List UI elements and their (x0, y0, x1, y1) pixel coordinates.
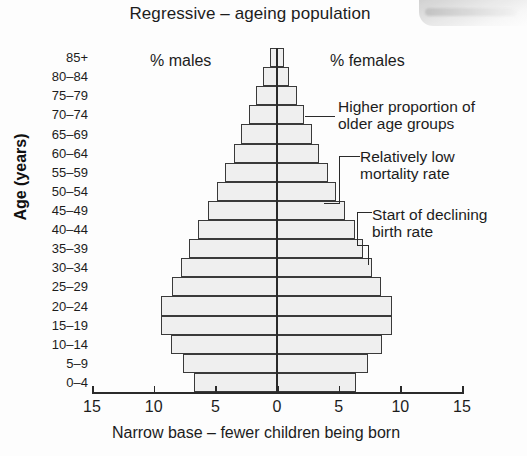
leader-line-2a (340, 156, 360, 157)
bar-female (277, 316, 392, 335)
age-tick-label: 15–19 (30, 319, 88, 332)
age-tick-label: 45–49 (30, 204, 88, 217)
age-tick-label: 0–4 (30, 376, 88, 389)
bar-female (277, 86, 297, 105)
bar-female (277, 163, 328, 182)
x-axis-tick-label: 10 (380, 398, 420, 416)
bar-male (263, 67, 277, 86)
annotation-declining-birth-rate: Start of declining birth rate (372, 206, 487, 240)
bar-male (249, 105, 277, 124)
age-tick-label: 75–79 (30, 89, 88, 102)
x-axis-tick-label: 5 (319, 398, 359, 416)
bar-male (194, 373, 277, 392)
x-axis-tick-label: 15 (442, 398, 482, 416)
x-axis-tick (277, 386, 279, 394)
leader-line-3d (368, 245, 369, 265)
bar-female (277, 239, 363, 258)
bar-female (277, 220, 355, 239)
x-axis-tick (462, 386, 464, 394)
chart-title: Regressive – ageing population (0, 4, 500, 24)
age-tick-label: 40–44 (30, 223, 88, 236)
x-axis-tick (400, 386, 402, 394)
leader-line-3a (357, 212, 372, 213)
age-tick-label: 5–9 (30, 357, 88, 370)
x-axis-tick (215, 386, 217, 394)
bar-female (277, 296, 392, 315)
age-tick-labels: 0–45–910–1415–1920–2425–2930–3435–3940–4… (30, 48, 88, 392)
bar-male (208, 201, 277, 220)
age-tick-label: 55–59 (30, 166, 88, 179)
y-axis-label: Age (years) (12, 112, 30, 242)
bar-female (277, 48, 284, 67)
x-axis-tick (154, 386, 156, 394)
leader-line-2c (324, 203, 340, 204)
x-axis-caption: Narrow base – fewer children being born (0, 424, 512, 442)
age-tick-label: 70–74 (30, 108, 88, 121)
bar-male (161, 296, 277, 315)
x-axis-tick (339, 386, 341, 394)
age-tick-label: 50–54 (30, 185, 88, 198)
leader-line-2b (339, 156, 340, 204)
bar-male (198, 220, 277, 239)
bar-female (277, 335, 382, 354)
bar-female (277, 354, 368, 373)
leader-line-1 (305, 116, 335, 117)
bar-male (183, 354, 277, 373)
age-tick-label: 30–34 (30, 261, 88, 274)
bar-female (277, 373, 356, 392)
age-tick-label: 10–14 (30, 338, 88, 351)
age-tick-label: 60–64 (30, 147, 88, 160)
bar-male (172, 277, 277, 296)
x-axis-tick (92, 386, 94, 394)
bar-male (161, 316, 277, 335)
age-tick-label: 65–69 (30, 128, 88, 141)
annotation-higher-proportion: Higher proportion of older age groups (338, 98, 475, 132)
zero-axis-line (276, 48, 278, 392)
x-axis-tick-label: 15 (72, 398, 112, 416)
chart-page: Regressive – ageing population Age (year… (0, 0, 527, 456)
age-tick-label: 20–24 (30, 300, 88, 313)
bar-female (277, 105, 304, 124)
annotation-low-mortality: Relatively low mortality rate (360, 148, 455, 182)
bar-female (277, 144, 319, 163)
leader-line-3b (357, 212, 358, 246)
bar-male (234, 144, 277, 163)
x-axis-tick-label: 5 (195, 398, 235, 416)
bar-female (277, 258, 372, 277)
age-tick-label: 25–29 (30, 280, 88, 293)
bar-female (277, 182, 336, 201)
age-tick-label: 80–84 (30, 70, 88, 83)
bar-male (241, 124, 277, 143)
age-tick-label: 35–39 (30, 242, 88, 255)
bar-male (181, 258, 277, 277)
bar-male (225, 163, 277, 182)
age-tick-label: 85+ (30, 51, 88, 64)
bar-male (256, 86, 277, 105)
x-axis-tick-label: 10 (134, 398, 174, 416)
bar-female (277, 124, 312, 143)
bar-male (217, 182, 277, 201)
bar-female (277, 67, 289, 86)
bar-male (189, 239, 277, 258)
bar-male (171, 335, 277, 354)
x-axis-tick-label: 0 (257, 398, 297, 416)
bar-female (277, 277, 381, 296)
